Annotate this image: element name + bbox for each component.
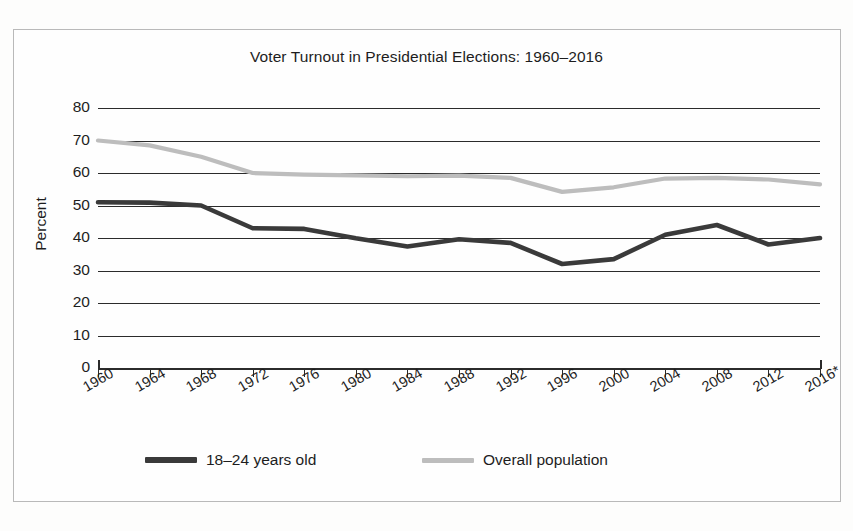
chart-legend: 18–24 years old Overall population — [145, 451, 705, 477]
legend-item-overall-population: Overall population — [422, 451, 608, 469]
legend-item-18-24-years-old: 18–24 years old — [145, 451, 316, 469]
legend-label-overall-population: Overall population — [483, 451, 608, 469]
legend-swatch-light-icon — [422, 458, 474, 463]
legend-swatch-dark-icon — [145, 457, 197, 463]
line-overall-population — [98, 141, 820, 192]
line-18-24-years-old — [98, 202, 820, 264]
legend-label-18-24-years-old: 18–24 years old — [206, 451, 316, 469]
